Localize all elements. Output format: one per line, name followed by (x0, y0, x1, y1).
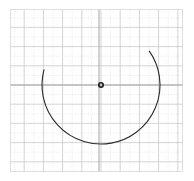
chart-figure (0, 0, 194, 181)
chart-canvas (0, 0, 194, 181)
plot-background (10, 9, 183, 172)
